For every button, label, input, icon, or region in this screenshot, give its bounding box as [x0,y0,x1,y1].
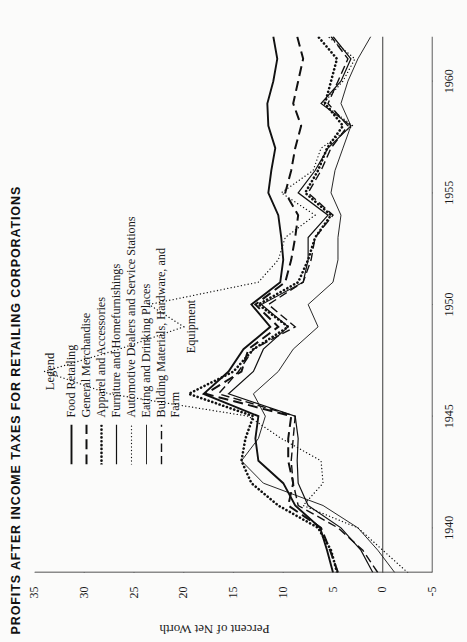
legend-item: General Merchandise [79,204,93,464]
y-tick-label: 25 [126,586,141,616]
legend-item: Apparel and Accessories [94,204,108,464]
y-tick-label: 15 [225,586,240,616]
x-tick-label: 1945 [441,396,456,436]
series-line-3 [228,36,372,572]
series-line-2 [188,36,342,572]
x-tick-label: 1960 [441,61,456,101]
legend-item: Building Materials, Hardware, and Farm [154,204,181,464]
y-tick-label: 10 [275,586,290,616]
legend-line-swatch [109,424,123,464]
legend-item-label: Food Retailing [64,344,78,417]
y-tick-label: 30 [76,586,91,616]
legend-line-swatch [64,424,78,464]
legend-item: Automotive Dealers and Service Stations [124,204,138,464]
legend-line-swatch [94,424,108,464]
legend-line-swatch [79,424,93,464]
chart-legend: Legend Food RetailingGeneral Merchandise… [42,204,198,464]
y-tick-label: 5 [325,586,340,616]
x-tick-label: 1955 [441,172,456,212]
y-tick-label: 35 [26,586,41,616]
rotated-chart-canvas: PROFITS AFTER INCOME TAXES FOR RETAILING… [0,0,467,642]
x-tick-label: 1940 [441,507,456,547]
legend-item-label: Furniture and Homefurnishings [109,263,123,417]
series-line-5 [241,36,394,572]
legend-item-label-continuation: Equipment [183,235,198,417]
legend-item: Food Retailing [64,204,78,464]
legend-heading: Legend [42,296,57,446]
y-tick-label: -5 [424,586,439,616]
y-tick-label: 20 [175,586,190,616]
legend-item: Furniture and Homefurnishings [109,204,123,464]
legend-line-swatch [139,424,153,464]
legend-line-swatch [124,424,138,464]
legend-item-label: Automotive Dealers and Service Stations [124,216,138,417]
legend-item-label: Building Materials, Hardware, and Farm [154,235,181,417]
x-tick-label: 1950 [441,284,456,324]
legend-item-label: General Merchandise [79,312,93,417]
y-axis-label: Percent of Net Worth [134,620,294,636]
chart-page: PROFITS AFTER INCOME TAXES FOR RETAILING… [0,0,467,642]
y-tick-label: 0 [374,586,389,616]
legend-item-label: Apparel and Accessories [94,297,108,417]
legend-line-swatch [154,424,168,464]
legend-item: Eating and Drinking Places [139,204,153,464]
page-title: PROFITS AFTER INCOME TAXES FOR RETAILING… [8,185,22,634]
legend-items: Food RetailingGeneral MerchandiseApparel… [64,204,181,464]
series-line-1 [205,36,337,572]
series-line-0 [203,36,332,572]
legend-item-label: Eating and Drinking Places [139,283,153,417]
